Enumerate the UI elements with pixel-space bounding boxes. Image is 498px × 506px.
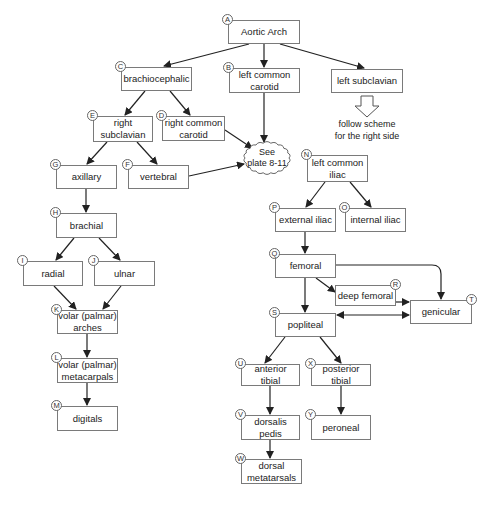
connector-arrow <box>164 44 249 66</box>
artery-label: genicular <box>422 306 461 318</box>
node-letter-badge: N <box>301 149 312 160</box>
node-letter-badge: T <box>466 294 477 305</box>
connector-arrow <box>125 91 145 115</box>
artery-label: dorsal metatarsals <box>247 460 296 484</box>
node-letter-badge: F <box>122 159 133 170</box>
artery-label: radial <box>41 268 64 280</box>
arterial-branching-diagram: Aortic ArchAleft common carotidBbrachioc… <box>0 0 498 506</box>
artery-node-peroneal: peroneal <box>311 415 371 440</box>
connector-arrow <box>225 130 252 148</box>
node-letter-badge: K <box>51 304 62 315</box>
connector-arrow <box>137 142 157 164</box>
artery-node-right-common-carotid: right common carotid <box>162 116 225 141</box>
follow-scheme-note: follow scheme for the right side <box>327 118 407 142</box>
node-letter-badge: O <box>339 202 350 213</box>
artery-label: peroneal <box>323 422 360 434</box>
node-letter-badge: C <box>115 61 126 72</box>
artery-node-external-iliac: external iliac <box>275 208 336 232</box>
artery-label: internal iliac <box>350 214 400 226</box>
artery-node-left-common-iliac: left common iliac <box>307 155 368 182</box>
node-letter-badge: G <box>50 159 61 170</box>
artery-label: volar (palmar) metacarpals <box>58 359 117 383</box>
node-letter-badge: E <box>87 110 98 121</box>
see-plate-reference: See plate 8-11 <box>237 147 297 169</box>
artery-node-right-subclavian: right subclavian <box>93 116 153 142</box>
artery-label: left subclavian <box>337 75 397 87</box>
artery-label: dorsalis pedis <box>254 416 287 440</box>
artery-label: right subclavian <box>101 117 146 141</box>
artery-node-aortic-arch: Aortic Arch <box>228 20 300 44</box>
artery-node-dorsalis-pedis: dorsalis pedis <box>241 415 300 440</box>
artery-label: Aortic Arch <box>241 26 287 38</box>
node-letter-badge: X <box>305 358 316 369</box>
connector-arrow <box>320 337 341 363</box>
node-letter-badge: W <box>235 453 246 464</box>
artery-label: right common carotid <box>165 117 223 141</box>
artery-node-deep-femoral: deep femoral <box>335 285 396 306</box>
node-letter-badge: L <box>51 352 62 363</box>
node-letter-badge: Q <box>269 248 280 259</box>
artery-label: axillary <box>72 171 102 183</box>
artery-node-brachiocephalic: brachiocephalic <box>121 67 192 91</box>
node-letter-badge: J <box>88 255 99 266</box>
artery-node-genicular: genicular <box>410 300 472 324</box>
artery-node-volar-palmar-metacarpals: volar (palmar) metacarpals <box>57 358 118 383</box>
artery-node-dorsal-metatarsals: dorsal metatarsals <box>241 459 302 484</box>
artery-node-radial: radial <box>23 261 83 286</box>
artery-label: vertebral <box>140 171 177 183</box>
artery-node-anterior-tibial: anterior tibial <box>241 364 300 386</box>
artery-label: brachial <box>70 220 103 232</box>
connector-arrow <box>99 238 120 260</box>
artery-label: left common carotid <box>239 69 291 93</box>
artery-node-ulnar: ulnar <box>94 261 155 286</box>
artery-label: femoral <box>290 260 322 272</box>
connector-arrow <box>103 286 121 309</box>
artery-label: posterior tibial <box>323 363 360 387</box>
connector-arrow <box>189 164 244 176</box>
artery-label: ulnar <box>114 268 135 280</box>
node-letter-badge: Y <box>305 409 316 420</box>
artery-node-left-common-carotid: left common carotid <box>229 68 300 93</box>
artery-label: left common iliac <box>312 157 364 181</box>
connector-arrow <box>170 91 190 115</box>
artery-node-left-subclavian: left subclavian <box>331 69 403 93</box>
connector-arrow <box>265 337 285 363</box>
follow-scheme-hollow-arrow-icon <box>355 96 379 117</box>
artery-node-popliteal: popliteal <box>275 313 336 337</box>
artery-node-brachial: brachial <box>56 213 117 238</box>
node-letter-badge: H <box>50 207 61 218</box>
node-letter-badge: D <box>156 110 167 121</box>
artery-node-digitals: digitals <box>57 406 118 431</box>
artery-label: anterior tibial <box>254 363 286 387</box>
node-letter-badge: M <box>51 400 62 411</box>
connector-arrow <box>280 44 364 68</box>
node-letter-badge: V <box>235 409 246 420</box>
artery-label: brachiocephalic <box>123 73 189 85</box>
node-letter-badge: U <box>235 358 246 369</box>
connector-arrow <box>350 182 371 207</box>
artery-node-internal-iliac: internal iliac <box>345 208 406 232</box>
node-letter-badge: S <box>269 307 280 318</box>
artery-node-vertebral: vertebral <box>128 165 189 189</box>
artery-label: popliteal <box>288 319 323 331</box>
connector-arrow <box>306 182 325 207</box>
connector-arrow <box>87 142 107 164</box>
connector-arrow <box>316 278 335 292</box>
node-letter-badge: B <box>223 62 234 73</box>
artery-label: deep femoral <box>338 290 393 302</box>
node-letter-badge: R <box>390 279 401 290</box>
connector-arrow <box>56 238 74 260</box>
node-letter-badge: A <box>222 14 233 25</box>
node-letter-badge: I <box>17 255 28 266</box>
artery-node-femoral: femoral <box>275 254 336 278</box>
artery-node-posterior-tibial: posterior tibial <box>311 364 371 386</box>
node-letter-badge: P <box>269 202 280 213</box>
artery-node-volar-palmar-arches: volar (palmar) arches <box>57 310 118 334</box>
artery-label: external iliac <box>279 214 332 226</box>
artery-node-axillary: axillary <box>56 165 117 189</box>
artery-label: volar (palmar) arches <box>58 310 117 334</box>
artery-label: digitals <box>73 413 103 425</box>
